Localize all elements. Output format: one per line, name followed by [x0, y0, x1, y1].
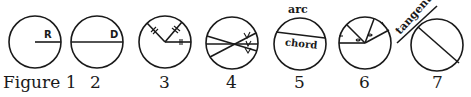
circle-parts-diagram: R Figure 1 D 2 3 4 arc	[0, 0, 471, 97]
angle-arc-mark	[368, 34, 372, 36]
chord-label: chord	[285, 36, 318, 50]
caption-figure-1: Figure 1	[3, 72, 76, 92]
panel-angles: 6	[339, 17, 391, 92]
caption-6: 6	[359, 72, 370, 92]
arc-label: arc	[288, 3, 308, 16]
tangent-label: tangent	[393, 0, 435, 37]
caption-7: 7	[432, 72, 443, 92]
caption-3: 3	[159, 72, 170, 92]
panel-diameter: D 2	[71, 16, 123, 92]
panel-arc-chord: arc chord 5	[274, 3, 326, 92]
diameter-line	[418, 27, 459, 63]
panel-tangent: tangent 7	[393, 0, 463, 92]
radius-label: R	[44, 29, 52, 40]
radius-a	[147, 23, 165, 42]
caption-2: 2	[90, 72, 101, 92]
panel-chords: 4	[206, 17, 258, 92]
panel-equal-radii: 3	[139, 16, 191, 92]
panel-radius: R Figure 1	[3, 16, 76, 92]
caption-4: 4	[226, 72, 237, 92]
angle-arc-mark	[356, 39, 360, 41]
caption-5: 5	[294, 72, 305, 92]
diameter-label: D	[110, 29, 118, 40]
